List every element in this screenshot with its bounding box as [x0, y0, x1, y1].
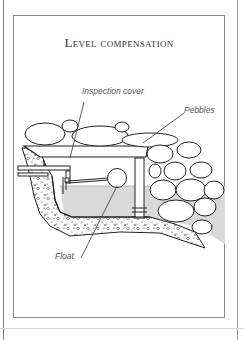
pebbles-top — [25, 120, 178, 147]
label-inspection-cover: Inspection cover — [82, 86, 144, 96]
label-float: Float — [55, 251, 74, 261]
level-compensation-diagram — [0, 0, 244, 340]
inspection-cover — [24, 146, 148, 157]
label-pebbles: Pebbles — [184, 105, 215, 115]
float-assembly — [65, 169, 127, 188]
